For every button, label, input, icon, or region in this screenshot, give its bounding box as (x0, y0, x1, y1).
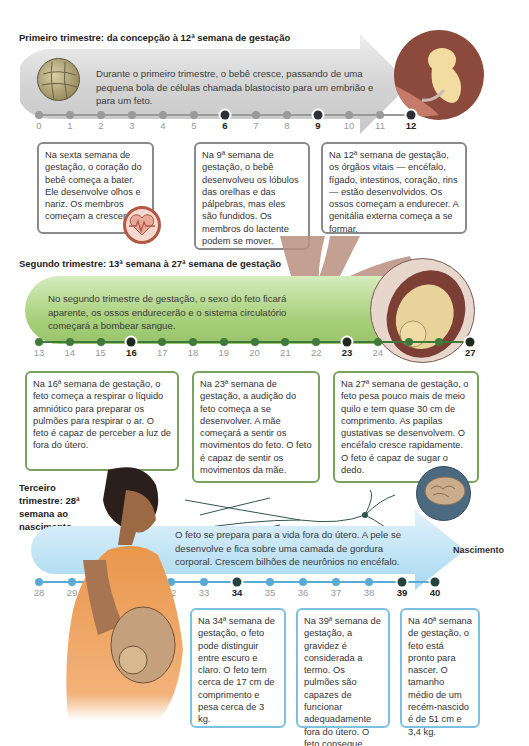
week-label: 35 (265, 587, 276, 598)
week-label: 16 (126, 347, 137, 358)
week-label: 13 (34, 347, 45, 358)
timeline-tick (220, 338, 228, 346)
callout-week-16: Na 16ª semana de gestação, o feto começa… (25, 371, 179, 471)
timeline-tick (374, 338, 382, 346)
blastocyst-illustration (37, 58, 80, 101)
timeline-tick (221, 111, 230, 120)
birth-label: Nascimento (453, 545, 504, 555)
week-label: 6 (222, 120, 227, 131)
callout-week-34: Na 34ª semana de gestação, o feto pode d… (190, 608, 286, 728)
embryo-12-weeks-illustration (394, 30, 484, 120)
week-label: 8 (284, 120, 289, 131)
week-label: 33 (199, 587, 210, 598)
timeline-tick (466, 338, 475, 347)
timeline-tick (66, 338, 74, 346)
week-label: 21 (280, 347, 291, 358)
timeline-tick (343, 338, 352, 347)
timeline-tick (407, 111, 416, 120)
timeline-tick (158, 338, 166, 346)
week-label: 9 (315, 120, 320, 131)
timeline-tick (35, 111, 43, 119)
fetus-in-uterus-illustration (370, 258, 475, 363)
week-label: 0 (36, 120, 41, 131)
timeline-tick (66, 111, 74, 119)
week-label: 40 (430, 587, 441, 598)
week-label: 36 (298, 587, 309, 598)
week-label: 24 (373, 347, 384, 358)
week-label: 39 (397, 587, 408, 598)
week-label: 34 (232, 587, 243, 598)
week-label: 22 (311, 347, 322, 358)
week-label: 4 (160, 120, 165, 131)
timeline-tick (281, 338, 289, 346)
timeline-tick (252, 111, 260, 119)
timeline-tick (251, 338, 259, 346)
week-label: 27 (465, 347, 476, 358)
timeline-tick (365, 578, 373, 586)
week-label: 12 (406, 120, 417, 131)
timeline-tick (97, 111, 105, 119)
timeline-tick (314, 111, 323, 120)
week-label: 23 (342, 347, 353, 358)
timeline-tick (312, 338, 320, 346)
week-label: 1 (67, 120, 72, 131)
timeline-tick (345, 111, 353, 119)
trimester2-summary: No segundo trimestre de gestação, o sexo… (48, 292, 298, 333)
timeline-tick (233, 578, 242, 587)
week-label: 14 (65, 347, 76, 358)
callout-week-23: Na 23ª semana de gestação, a audição do … (192, 371, 320, 483)
timeline-tick (376, 111, 384, 119)
week-label: 18 (188, 347, 199, 358)
week-label: 11 (375, 120, 385, 131)
week-label: 3 (129, 120, 134, 131)
callout-week-12: Na 12ª semana de gestação, os órgãos vit… (321, 142, 467, 234)
week-label: 7 (253, 120, 258, 131)
timeline-tick (332, 578, 340, 586)
timeline-tick (127, 338, 136, 347)
week-label: 20 (249, 347, 260, 358)
timeline-tick (35, 338, 43, 346)
week-label: 38 (364, 587, 375, 598)
heartbeat-icon (123, 206, 161, 244)
timeline-tick (97, 338, 105, 346)
callout-week-39: Na 39ª semana de gestação, a gravidez é … (296, 608, 390, 728)
week-label: 2 (98, 120, 103, 131)
week-label: 37 (331, 587, 342, 598)
pregnant-woman-illustration (28, 460, 198, 720)
trimester3-summary: O feto se prepara para a vida fora do út… (175, 528, 420, 569)
timeline-tick (299, 578, 307, 586)
callout-week-27: Na 27ª semana de gestação, o feto pesa p… (333, 371, 479, 483)
timeline-tick (189, 338, 197, 346)
week-label: 5 (191, 120, 196, 131)
timeline-tick (283, 111, 291, 119)
timeline-tick (435, 338, 443, 346)
week-label: 19 (219, 347, 230, 358)
week-label: 10 (344, 120, 355, 131)
callout-week-40: Na 40ª semana de gestação, o feto está p… (400, 608, 480, 728)
callout-week-9: Na 9ª semana de gestação, o bebê desenvo… (194, 142, 310, 250)
timeline-tick (159, 111, 167, 119)
week-label: 17 (157, 347, 168, 358)
trimester2-title: Segundo trimestre: 13ª semana à 27ª sema… (19, 258, 281, 269)
week-label: 15 (95, 347, 106, 358)
timeline-tick (128, 111, 136, 119)
timeline-tick (431, 578, 440, 587)
timeline-tick (200, 578, 208, 586)
timeline-tick (190, 111, 198, 119)
timeline-tick (405, 338, 413, 346)
timeline-tick (266, 578, 274, 586)
timeline-tick (398, 578, 407, 587)
trimester1-summary: Durante o primeiro trimestre, o bebê cre… (96, 67, 376, 108)
